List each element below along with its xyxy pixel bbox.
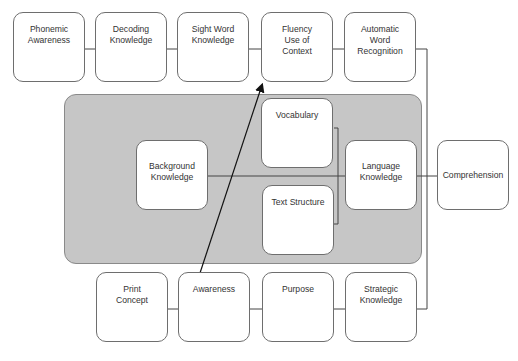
node-vocabulary: Vocabulary: [261, 98, 333, 168]
node-text-structure: Text Structure: [262, 185, 334, 255]
node-background-knowledge: Background Knowledge: [136, 140, 208, 210]
node-label: Awareness: [193, 284, 235, 295]
node-phonemic-awareness: Phonemic Awareness: [13, 12, 85, 82]
node-label: Language Knowledge: [360, 161, 403, 183]
node-label: Strategic Knowledge: [360, 284, 403, 306]
node-label: Comprehension: [443, 170, 504, 181]
node-awareness: Awareness: [178, 272, 250, 342]
node-print-concept: Print Concept: [96, 272, 168, 342]
node-label: Decoding Knowledge: [110, 24, 153, 46]
node-label: Sight Word Knowledge: [192, 24, 235, 46]
node-label: Automatic Word Recognition: [357, 24, 402, 57]
node-label: Phonemic Awareness: [28, 24, 70, 46]
node-automatic-word-recognition: Automatic Word Recognition: [344, 12, 416, 82]
reading-comprehension-diagram: Phonemic Awareness Decoding Knowledge Si…: [0, 0, 518, 361]
node-purpose: Purpose: [262, 272, 334, 342]
node-label: Fluency Use of Context: [282, 24, 312, 57]
node-label: Vocabulary: [276, 110, 319, 121]
node-label: Purpose: [282, 284, 314, 295]
node-label: Print Concept: [116, 284, 148, 306]
node-label: Text Structure: [271, 197, 324, 208]
node-comprehension: Comprehension: [437, 140, 509, 210]
node-decoding-knowledge: Decoding Knowledge: [95, 12, 167, 82]
node-fluency-use-of-context: Fluency Use of Context: [261, 12, 333, 82]
node-language-knowledge: Language Knowledge: [345, 140, 417, 210]
node-label: Background Knowledge: [149, 161, 195, 183]
node-strategic-knowledge: Strategic Knowledge: [345, 272, 417, 342]
node-sight-word-knowledge: Sight Word Knowledge: [177, 12, 249, 82]
